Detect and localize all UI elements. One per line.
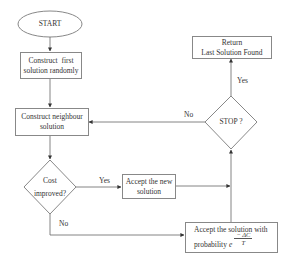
formula-base: e — [229, 240, 232, 250]
construct-neighbour-line1: Construct neighbour — [21, 112, 82, 122]
stop-yes-label: Yes — [237, 76, 248, 85]
accept-probability-node: Accept the solution with probability e −… — [185, 222, 278, 253]
start-label: START — [39, 19, 62, 29]
construct-first-node: Construct first solution randomly — [20, 52, 82, 79]
return-node: Return Last Solution Found — [192, 36, 272, 59]
stop-no-label: No — [184, 110, 193, 119]
stop-node: STOP ? — [209, 112, 253, 132]
cost-no-label: No — [59, 219, 68, 228]
accept-new-node: Accept the new solution — [122, 174, 176, 199]
accept-prob-line1: Accept the solution with — [194, 225, 268, 235]
flowchart-canvas: START Construct first solution randomly … — [0, 0, 293, 264]
accept-new-line1: Accept the new — [126, 177, 173, 187]
cost-improved-line2: improved? — [34, 187, 66, 200]
construct-neighbour-line2: solution — [40, 122, 64, 132]
formula-exponent: − ΔC T — [234, 231, 252, 246]
accept-prob-line2: probability — [194, 240, 227, 250]
cost-yes-label: Yes — [99, 176, 110, 185]
construct-neighbour-node: Construct neighbour solution — [15, 108, 89, 136]
exponent-denominator: T — [241, 239, 245, 246]
cost-improved-line1: Cost — [43, 174, 57, 187]
probability-formula: probability e − ΔC T — [194, 235, 252, 250]
return-line2: Last Solution Found — [201, 48, 262, 58]
accept-new-line2: solution — [137, 187, 161, 197]
start-node: START — [18, 11, 82, 37]
exponent-numerator: − ΔC — [234, 231, 252, 239]
stop-label: STOP ? — [219, 117, 242, 127]
construct-first-line1: Construct first — [29, 56, 74, 66]
cost-improved-node: Cost improved? — [28, 172, 72, 202]
return-line1: Return — [222, 38, 242, 48]
construct-first-line2: solution randomly — [24, 66, 79, 76]
